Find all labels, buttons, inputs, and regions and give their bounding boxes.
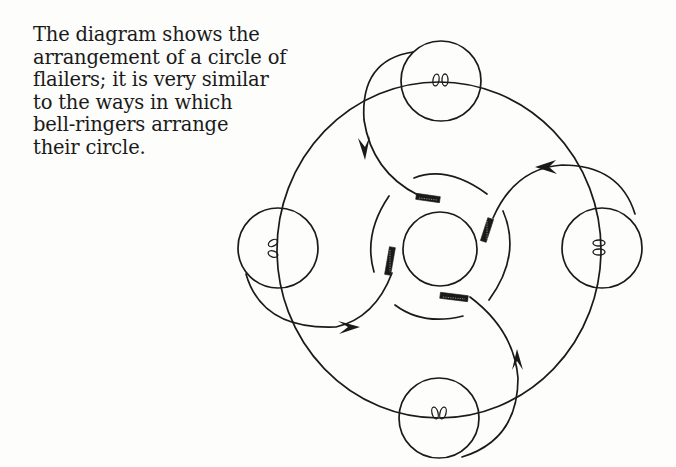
arrow-left-icon — [535, 160, 557, 174]
flailer-right — [562, 208, 642, 288]
inner-arc-left — [371, 196, 389, 272]
outer-circle — [277, 82, 601, 418]
flailer-top — [401, 41, 481, 121]
center-circle — [403, 212, 477, 286]
flail-head-left — [385, 247, 396, 276]
flailer-left — [238, 208, 318, 288]
arrow-up-icon — [512, 349, 523, 370]
inner-arc-top — [414, 174, 487, 194]
flail-head-bottom — [440, 292, 469, 301]
flail-head-right — [480, 218, 493, 243]
swing-arc-bottom — [462, 297, 518, 457]
swing-arc-top — [364, 52, 418, 195]
inner-arc-bottom — [395, 305, 463, 319]
flail-head-top — [416, 193, 441, 202]
flailers-diagram — [0, 0, 676, 467]
swing-arc-left — [246, 273, 392, 327]
